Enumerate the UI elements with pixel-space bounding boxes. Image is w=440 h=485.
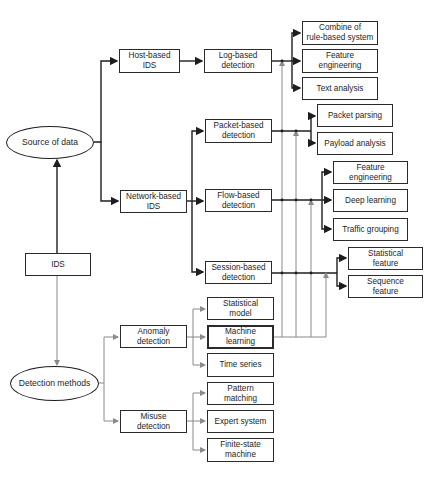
sequence-feature-label: Sequence feature [367, 277, 404, 297]
detection-methods-label: Detection methods [19, 378, 91, 389]
traffic-grouping-node: Traffic grouping [333, 218, 408, 241]
pattern-matching-label: Pattern matching [224, 384, 257, 404]
machine-learning-node: Machine learning [207, 325, 274, 349]
misuse-detection-node: Misuse detection [120, 410, 187, 433]
host-based-ids-label: Host-based IDS [129, 51, 171, 71]
packet-based-detection-node: Packet-based detection [205, 119, 272, 143]
packet-parsing-node: Packet parsing [317, 104, 393, 127]
ids-root-node: IDS [25, 253, 91, 276]
machine-learning-label: Machine learning [225, 327, 256, 347]
log-based-detection-node: Log-based detection [204, 49, 272, 73]
anomaly-detection-node: Anomaly detection [120, 325, 187, 348]
feature-engineering-log-label: Feature engineering [319, 51, 362, 71]
combine-rule-based-label: Combine of rule-based system [307, 23, 374, 43]
ids-taxonomy-diagram: IDS Source of data Detection methods Hos… [0, 0, 440, 485]
anomaly-detection-label: Anomaly detection [137, 327, 170, 347]
finite-state-machine-node: Finite-state machine [207, 438, 274, 462]
feature-engineering-flow-label: Feature engineering [349, 163, 392, 183]
feature-engineering-log-node: Feature engineering [302, 49, 378, 73]
payload-analysis-node: Payload analysis [317, 132, 393, 155]
source-of-data-label: Source of data [22, 137, 78, 148]
deep-learning-label: Deep learning [345, 196, 396, 206]
host-based-ids-node: Host-based IDS [119, 49, 180, 73]
statistical-model-label: Statistical model [223, 299, 258, 319]
combine-rule-based-node: Combine of rule-based system [302, 21, 378, 45]
statistical-feature-label: Statistical feature [368, 249, 403, 269]
deep-learning-node: Deep learning [333, 189, 408, 212]
misuse-detection-label: Misuse detection [137, 412, 170, 432]
time-series-label: Time series [219, 360, 261, 370]
flow-based-detection-node: Flow-based detection [205, 189, 272, 212]
log-based-detection-label: Log-based detection [219, 51, 258, 71]
packet-based-detection-label: Packet-based detection [213, 121, 263, 141]
source-of-data-node: Source of data [6, 126, 94, 159]
text-analysis-node: Text analysis [302, 77, 378, 100]
statistical-feature-node: Statistical feature [348, 247, 423, 270]
packet-parsing-label: Packet parsing [328, 111, 382, 121]
pattern-matching-node: Pattern matching [207, 382, 274, 405]
flow-based-detection-label: Flow-based detection [217, 191, 259, 211]
session-based-detection-label: Session-based detection [211, 263, 265, 283]
statistical-model-node: Statistical model [207, 297, 274, 320]
ids-root-label: IDS [51, 260, 65, 270]
sequence-feature-node: Sequence feature [348, 275, 423, 298]
network-based-ids-node: Network-based IDS [120, 190, 187, 213]
feature-engineering-flow-node: Feature engineering [333, 161, 408, 184]
time-series-node: Time series [207, 353, 274, 377]
expert-system-label: Expert system [215, 417, 267, 427]
text-analysis-label: Text analysis [317, 84, 364, 94]
payload-analysis-label: Payload analysis [324, 139, 385, 149]
finite-state-machine-label: Finite-state machine [220, 440, 261, 460]
session-based-detection-node: Session-based detection [205, 261, 272, 284]
expert-system-node: Expert system [207, 410, 274, 433]
traffic-grouping-label: Traffic grouping [342, 225, 398, 235]
network-based-ids-label: Network-based IDS [126, 192, 181, 212]
detection-methods-node: Detection methods [10, 366, 99, 401]
